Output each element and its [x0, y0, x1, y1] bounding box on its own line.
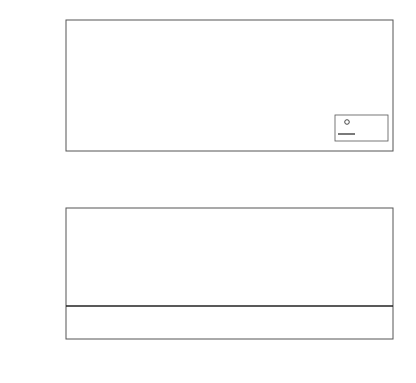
- bottom-panel: [66, 208, 393, 339]
- chart-canvas: [0, 0, 416, 383]
- top-panel: [39, 20, 393, 151]
- legend-box: [335, 115, 388, 141]
- bottom-plot-frame: [66, 208, 393, 339]
- legend: [335, 115, 388, 141]
